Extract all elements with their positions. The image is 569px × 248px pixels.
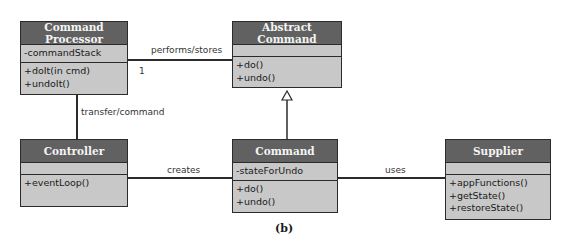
class-abstract-command-title: Abstract Command xyxy=(233,22,341,45)
attribute: -stateForUndo xyxy=(236,164,334,177)
method: +undo() xyxy=(236,196,334,209)
class-command: Command -stateForUndo +do() +undo() xyxy=(232,139,338,213)
class-command-processor: Command Processor -commandStack +doIt(in… xyxy=(20,21,128,95)
method: +do() xyxy=(236,59,338,72)
class-controller-attributes xyxy=(21,163,127,175)
method: +appFunctions() xyxy=(449,177,547,190)
class-abstract-command-methods: +do() +undo() xyxy=(233,57,341,86)
class-abstract-command: Abstract Command +do() +undo() xyxy=(232,21,342,88)
method: +do() xyxy=(236,183,334,196)
class-controller: Controller +eventLoop() xyxy=(20,139,128,207)
attribute: -commandStack xyxy=(24,46,124,59)
class-supplier-methods: +appFunctions() +getState() +restoreStat… xyxy=(446,175,550,217)
method: +restoreState() xyxy=(449,202,547,215)
class-abstract-command-attributes xyxy=(233,45,341,57)
class-command-processor-title: Command Processor xyxy=(21,22,127,45)
class-supplier-title: Supplier xyxy=(446,140,550,163)
method: +doIt(in cmd) xyxy=(24,65,124,78)
class-command-title: Command xyxy=(233,140,337,163)
method: +getState() xyxy=(449,190,547,203)
class-controller-title: Controller xyxy=(21,140,127,163)
class-command-methods: +do() +undo() xyxy=(233,181,337,210)
figure-caption: (b) xyxy=(275,222,293,235)
class-command-processor-methods: +doIt(in cmd) +undoIt() xyxy=(21,63,127,92)
class-command-attributes: -stateForUndo xyxy=(233,163,337,181)
method: +eventLoop() xyxy=(24,177,124,190)
class-command-processor-attributes: -commandStack xyxy=(21,45,127,63)
class-supplier: Supplier +appFunctions() +getState() +re… xyxy=(445,139,551,220)
class-controller-methods: +eventLoop() xyxy=(21,175,127,192)
method: +undo() xyxy=(236,72,338,85)
method: +undoIt() xyxy=(24,78,124,91)
class-supplier-attributes xyxy=(446,163,550,175)
